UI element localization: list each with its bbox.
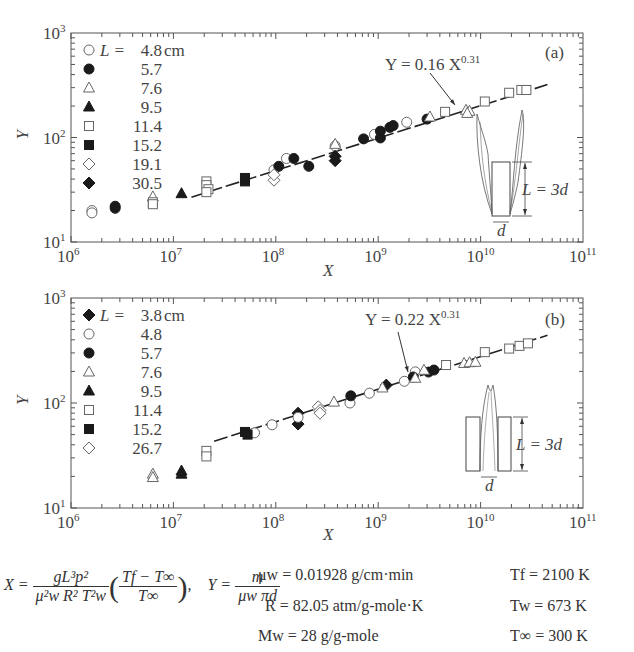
legend-value: 5.7 [141,344,163,363]
y-tick-exponent: 2 [60,392,66,404]
legend-value: 26.7 [132,439,162,458]
data-point [346,391,356,401]
x-tick-label: 108 [262,511,285,532]
series-3-8 [292,379,392,430]
data-point [202,452,211,461]
x-def-lhs: X = [4,576,29,593]
x-tick-exponent: 6 [74,245,80,257]
constant-r: R = 82.05 atm/g-mole·K [265,597,423,615]
y-tick-exponent: 3 [60,287,66,299]
data-point [359,134,369,144]
arrowhead-down [520,464,524,470]
fit-equation-exponent: 0.31 [441,308,460,320]
y-tick-exponent: 3 [60,22,66,34]
constant-t-f: Tf = 2100 K [510,566,590,584]
x-def-numerator: gL³p² [33,568,109,587]
x-def-paren-fraction: Tf − T∞ T∞ [119,568,177,605]
x-tick-exponent: 7 [176,511,182,523]
legend-prefix: L = [99,41,125,60]
legend-value: 30.5 [132,174,162,193]
figure-canvas: 10610710810910101011101102103XY(a)Y = 0.… [0,0,634,652]
data-point [110,203,120,213]
legend: L =4.8cm5.77.69.511.415.219.130.5 [83,41,185,193]
legend-marker [83,309,95,321]
data-point [402,117,412,127]
legend-prefix-symbol: L = [99,306,125,325]
series-9-5 [176,188,187,198]
y-axis-label: Y [13,394,32,405]
x-tick-label: 1011 [569,245,597,266]
legend-marker [84,385,95,395]
left-paren: ( [109,570,119,603]
y-tick-exponent: 2 [60,127,66,139]
legend-value: 9.5 [141,382,162,401]
x-tick-label: 109 [364,511,387,532]
flame-left-inner [480,122,492,212]
legend-value: 7.6 [141,79,162,98]
burner-block-left [466,417,480,471]
x-tick-label: 106 [57,511,80,532]
data-point [293,412,303,422]
x-def-trail: , [187,576,191,593]
legend-value: 9.5 [141,98,162,117]
data-point [87,208,97,218]
burner-block [492,162,510,216]
y-tick-label: 103 [43,287,66,308]
flame-center [480,385,498,471]
schematic-diagram: L = 3dd [477,110,569,240]
dimension-label-d: d [485,476,494,495]
data-point [480,348,489,357]
series-26-7 [312,401,326,419]
dimension-label-l: L = 3d [521,180,569,199]
legend: L =3.8cm4.85.77.69.511.415.226.7 [83,306,185,458]
fit-equation-exponent: 0.31 [461,53,480,65]
x-tick-label: 106 [57,245,80,266]
legend-value: 11.4 [133,117,163,136]
x-tick-label: 1010 [467,511,496,532]
data-point [522,85,531,94]
fit-equation-label: Y = 0.16 X0.31 [385,53,480,74]
arrowhead-up [520,418,524,424]
x-tick-exponent: 6 [74,511,80,523]
fit-arrow [398,332,408,372]
legend-value: 5.7 [141,60,163,79]
x-tick-exponent: 8 [279,245,285,257]
legend-marker [84,329,94,339]
legend-marker [84,366,95,376]
data-point [515,341,524,350]
chart-panel-b: 10610710810910101011101102103XY(b)Y = 0.… [13,287,597,544]
dimension-label-d: d [497,221,506,240]
data-point [364,388,374,398]
fit-arrow [430,73,455,105]
series-7-6 [147,104,475,201]
legend-unit: cm [164,41,185,60]
data-point [176,188,187,198]
legend-value: 19.1 [132,155,162,174]
legend-marker [85,122,94,131]
data-point [240,177,249,186]
legend-marker [84,64,94,74]
legend-value: 11.4 [133,401,163,420]
legend-value: 4.8 [141,41,162,60]
legend-marker [84,45,94,55]
data-point [523,339,532,348]
y-tick-label: 102 [43,127,66,148]
x-tick-label: 1011 [569,511,597,532]
legend-marker [83,177,95,189]
legend-value: 15.2 [132,136,162,155]
y-tick-label: 102 [43,392,66,413]
data-point [388,121,398,131]
series-9-5 [176,465,187,478]
constant-mu-w: μw = 0.01928 g/cm·min [258,566,413,584]
fit-arrowhead [405,366,409,372]
x-tick-exponent: 10 [484,511,496,523]
fit-equation-label: Y = 0.22 X0.31 [365,308,460,329]
arrowhead-down [523,209,527,215]
burner-block-right [498,417,511,471]
x-tick-label: 109 [364,245,387,266]
data-point [375,133,385,143]
x-tick-exponent: 9 [381,245,387,257]
panel-label: (a) [545,43,564,62]
x-tick-exponent: 10 [484,245,496,257]
chart-panel-a: 10610710810910101011101102103XY(a)Y = 0.… [13,22,597,280]
